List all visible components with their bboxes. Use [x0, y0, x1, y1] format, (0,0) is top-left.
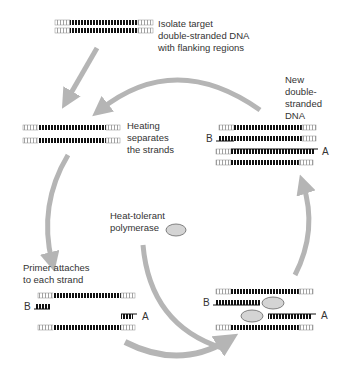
primer-b-label: B — [203, 298, 210, 308]
primer-b — [36, 304, 50, 309]
dna-double-strand-initial — [55, 20, 153, 33]
primer-a-label: A — [322, 147, 329, 157]
arrow-polymerase-to-extension — [143, 245, 222, 348]
arrow-heating-to-primer — [48, 155, 68, 262]
label-heating: Heating separates the strands — [127, 120, 174, 156]
primer-b-label: B — [24, 302, 31, 312]
label-polymerase: Heat-tolerant polymerase — [110, 210, 165, 234]
polymerase-icon — [166, 224, 186, 236]
label-isolate: Isolate target double-stranded DNA with … — [158, 18, 249, 54]
cycle-arrows — [48, 48, 309, 356]
dna-extension — [213, 289, 316, 330]
label-new-dna: New double- stranded DNA — [285, 74, 322, 122]
primer-a — [121, 314, 133, 319]
pcr-diagram: Isolate target double-stranded DNA with … — [0, 0, 346, 371]
dna-primer-annealed — [34, 293, 137, 330]
primer-a-label: A — [321, 311, 328, 321]
primer-a-label: A — [142, 312, 149, 322]
polymerase-enzyme — [241, 310, 263, 322]
arrow-extension-to-new — [295, 184, 309, 275]
polymerase-enzyme — [262, 297, 284, 309]
dna-new-double-strands — [216, 125, 318, 165]
label-primer: Primer attaches to each strand — [23, 262, 90, 286]
dna-separated-strands — [23, 125, 120, 143]
arrow-new-to-heating — [100, 80, 260, 110]
primer-b-label: B — [206, 134, 213, 144]
arrow-isolate-to-heating — [67, 48, 97, 100]
